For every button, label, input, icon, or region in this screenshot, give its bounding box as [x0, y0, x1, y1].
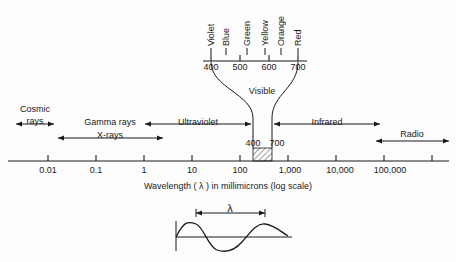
wavelength-wave-diagram: [176, 209, 292, 251]
band-label-infrared: Infrared: [311, 118, 342, 127]
color-scale-tick-700: 700: [290, 63, 305, 72]
color-label-green: Green: [243, 10, 252, 46]
color-scale-tick-500: 500: [232, 63, 247, 72]
axis-tick-label-3: 10: [187, 166, 197, 175]
band-label-ultraviolet: Ultraviolet: [178, 118, 218, 127]
color-name-ticks: [211, 48, 298, 55]
band-arrow-radio: [376, 138, 449, 143]
axis-tick-label-1: 0.1: [90, 166, 103, 175]
color-label-violet: Violet: [207, 6, 216, 46]
lambda-label: λ: [227, 203, 233, 214]
color-label-yellow: Yellow: [261, 6, 270, 46]
axis-tick-label-7: 100,000: [374, 166, 407, 175]
visible-band-label-400: 400: [245, 139, 260, 148]
visible-band-marker: [253, 148, 272, 161]
axis-caption: Wavelength ( λ ) in millimicrons (log sc…: [144, 182, 312, 191]
axis-tick-label-4: 100: [232, 166, 247, 175]
band-label-cosmic-rays-line1: Cosmic: [20, 105, 50, 114]
color-label-red: Red: [294, 17, 303, 46]
axis-tick-label-0: 0.01: [39, 166, 57, 175]
band-label-xrays: X-rays: [97, 131, 123, 140]
band-label-radio: Radio: [400, 130, 424, 139]
color-label-blue: Blue: [222, 14, 231, 46]
axis-tick-label-5: 1,000: [279, 166, 302, 175]
color-scale-axis: [203, 55, 307, 61]
band-label-gamma-rays: Gamma rays: [84, 118, 136, 127]
visible-funnel: [211, 62, 298, 148]
color-scale-tick-600: 600: [261, 63, 276, 72]
wavelength-axis: [8, 155, 449, 161]
visible-band-label-700: 700: [269, 139, 284, 148]
electromagnetic-spectrum-figure: Violet Blue Green Yellow Orange Red 400 …: [0, 0, 456, 262]
axis-tick-label-2: 1: [141, 166, 146, 175]
color-scale-tick-400: 400: [203, 63, 218, 72]
visible-label: Visible: [249, 87, 275, 96]
color-label-orange: Orange: [277, 3, 286, 46]
band-label-cosmic-rays-line2: rays: [26, 117, 43, 126]
axis-tick-label-6: 10,000: [326, 166, 354, 175]
